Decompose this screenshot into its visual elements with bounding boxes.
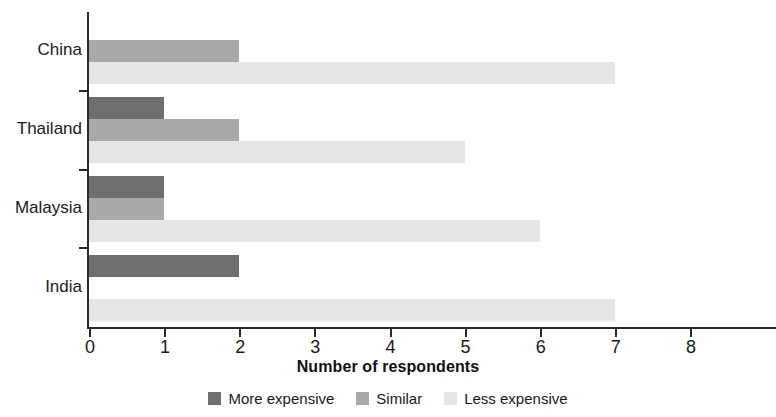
bar-thailand-less-expensive [89,141,465,163]
legend-label: More expensive [228,390,334,407]
x-axis-tick-label: 6 [526,337,556,358]
x-axis-tick [465,329,467,337]
x-axis-title: Number of respondents [0,358,776,376]
y-axis-tick [79,169,88,171]
bar-malaysia-similar [89,198,164,220]
x-axis-tick [239,329,241,337]
plot-area [89,12,690,327]
x-axis-tick-label: 5 [451,337,481,358]
x-axis-tick-label: 4 [376,337,406,358]
x-axis-tick [89,329,91,337]
y-axis-label-thailand: Thailand [2,119,82,139]
x-axis-line [87,327,776,329]
x-axis-tick [540,329,542,337]
bar-malaysia-less-expensive [89,220,540,242]
y-axis-tick [79,247,88,249]
y-axis-label-india: India [2,277,82,297]
y-axis-label-malaysia: Malaysia [2,198,82,218]
bar-malaysia-more-expensive [89,176,164,198]
bar-thailand-more-expensive [89,97,164,119]
legend-label: Similar [376,390,422,407]
x-axis-tick [615,329,617,337]
legend-swatch-icon [444,392,457,405]
bar-group-india [89,248,690,327]
legend-label: Less expensive [464,390,567,407]
legend-item-similar: Similar [356,390,422,407]
bar-china-less-expensive [89,62,615,84]
x-axis-tick [390,329,392,337]
x-axis-tick-label: 7 [601,337,631,358]
x-axis-tick-label: 2 [225,337,255,358]
legend-swatch-icon [356,392,369,405]
x-axis-tick [690,329,692,337]
x-axis-tick [314,329,316,337]
x-axis-tick-label: 0 [75,337,105,358]
x-axis-tick-label: 8 [676,337,706,358]
y-axis-tick [79,90,88,92]
legend-item-more-expensive: More expensive [208,390,334,407]
x-axis-tick-label: 1 [150,337,180,358]
bar-thailand-similar [89,119,239,141]
bar-group-malaysia [89,170,690,249]
legend-swatch-icon [208,392,221,405]
chart-legend: More expensiveSimilarLess expensive [0,390,776,407]
bar-china-similar [89,40,239,62]
bar-india-less-expensive [89,299,615,321]
legend-item-less-expensive: Less expensive [444,390,567,407]
y-axis-labels: ChinaThailandMalaysiaIndia [0,0,82,329]
y-axis-label-china: China [2,40,82,60]
bar-group-china [89,12,690,91]
x-axis-tick-label: 3 [300,337,330,358]
bar-chart: ChinaThailandMalaysiaIndia 012345678 Num… [0,0,776,417]
bar-group-thailand [89,91,690,170]
bar-india-more-expensive [89,255,239,277]
x-axis-tick [164,329,166,337]
